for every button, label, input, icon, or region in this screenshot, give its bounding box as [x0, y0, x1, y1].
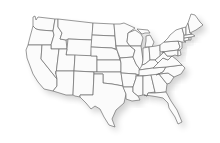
state-co: [74, 55, 97, 72]
state-mt: [58, 19, 93, 40]
us-map-svg: [0, 0, 220, 143]
state-ks: [97, 60, 121, 72]
state-nm: [73, 71, 94, 97]
us-map: United States: [0, 0, 220, 143]
state-nd: [92, 23, 115, 36]
states-group: [26, 14, 203, 127]
state-wy: [66, 39, 92, 56]
